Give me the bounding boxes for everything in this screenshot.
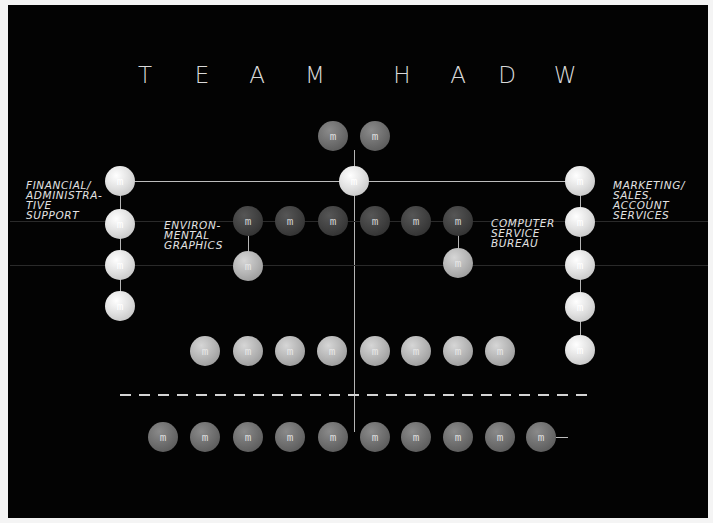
label-marketing-sales-account-services: MARKETING/SALES,ACCOUNTSERVICES [613, 180, 685, 220]
candy-bottom-row: m [190, 422, 220, 452]
candy-financial: m [105, 291, 135, 321]
bottom-row-tail-line [556, 437, 568, 438]
title-letter: A [249, 62, 265, 88]
candy-marketing: m [565, 292, 595, 322]
title-letter: M [305, 62, 325, 88]
left-column-line [120, 181, 121, 306]
candy-financial: m [105, 250, 135, 280]
candy-bottom-row: m [401, 422, 431, 452]
candy-row2: m [360, 206, 390, 236]
title-letter: W [554, 62, 577, 88]
candy-bottom-row: m [526, 422, 556, 452]
candy-bottom-row: m [275, 422, 305, 452]
label-financial-administrative-support: FINANCIAL/ADMINISTRA-TIVESUPPORT [26, 180, 102, 220]
candy-row4: m [360, 336, 390, 366]
candy-row4: m [443, 336, 473, 366]
candy-row2: m [443, 206, 473, 236]
label-environmental-graphics: ENVIRON-MENTALGRAPHICS [164, 220, 223, 250]
candy-bottom-row: m [485, 422, 515, 452]
title-letter: D [498, 62, 516, 88]
title-letter: E [195, 62, 210, 88]
candy-center-hub: m [339, 166, 369, 196]
candy-row4: m [190, 336, 220, 366]
candy-bottom-row: m [443, 422, 473, 452]
candy-bottom-row: m [360, 422, 390, 452]
candy-bottom-row: m [148, 422, 178, 452]
candy-financial: m [105, 166, 135, 196]
candy-bottom-row: m [318, 422, 348, 452]
candy-marketing: m [565, 166, 595, 196]
candy-marketing: m [565, 335, 595, 365]
candy-top-left: m [318, 121, 348, 151]
candy-row4: m [401, 336, 431, 366]
label-computer-service-bureau: COMPUTERSERVICEBUREAU [491, 218, 555, 248]
candy-row2: m [233, 206, 263, 236]
candy-top-right: m [360, 121, 390, 151]
title-letter: A [450, 62, 466, 88]
title-letter: T [138, 62, 152, 88]
candy-row2: m [401, 206, 431, 236]
candy-row4: m [233, 336, 263, 366]
candy-marketing: m [565, 250, 595, 280]
title-letter: H [393, 62, 410, 88]
candy-marketing: m [565, 207, 595, 237]
candy-row4: m [485, 336, 515, 366]
candy-row4: m [317, 336, 347, 366]
candy-financial: m [105, 209, 135, 239]
candy-environmental-graphics: m [233, 251, 263, 281]
candy-row2: m [275, 206, 305, 236]
candy-row2: m [318, 206, 348, 236]
candy-bottom-row: m [233, 422, 263, 452]
candy-computer-bureau: m [443, 248, 473, 278]
candy-row4: m [275, 336, 305, 366]
